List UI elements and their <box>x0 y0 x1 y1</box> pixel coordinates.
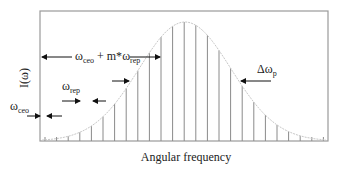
comb-lines <box>45 22 323 141</box>
mode-label: ωceo + m*ωrep <box>75 49 140 65</box>
bandwidth-label: Δωp <box>257 62 277 78</box>
spacing-label: ωrep <box>62 79 80 95</box>
y-axis-label: I(ω) <box>17 68 31 88</box>
offset-label: ωceo <box>10 99 29 115</box>
frequency-comb-diagram: I(ω) Angular frequency ωceo + m*ωrep ωre… <box>0 0 337 170</box>
x-axis-label: Angular frequency <box>141 150 231 164</box>
